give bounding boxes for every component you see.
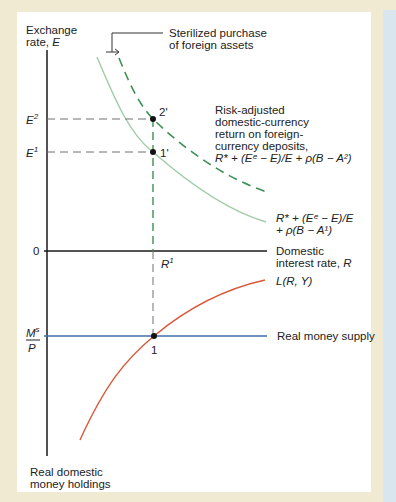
point-1-prime-label: 1': [160, 147, 169, 159]
e2-label: E2: [26, 114, 38, 126]
money-demand-label: L(R, Y): [276, 275, 312, 287]
p-label: P: [28, 342, 36, 354]
origin-label: 0: [33, 245, 39, 257]
money-demand-curve: [80, 280, 265, 440]
r1-label: R1: [161, 258, 174, 270]
money-supply-label: Real money supply: [277, 330, 375, 342]
point-2-prime: [150, 116, 156, 122]
y-axis-label: Exchange rate, E: [26, 24, 77, 48]
risk-adjusted-return-label: Risk-adjusted domestic-currency return o…: [215, 104, 352, 164]
point-1: [151, 333, 157, 339]
x-axis-label: Domestic interest rate, R: [276, 245, 351, 269]
point-1-label: 1: [151, 344, 157, 356]
ms-label: Ms: [26, 327, 40, 339]
point-2-prime-label: 2': [159, 106, 168, 118]
lower-axis-label: Real domestic money holdings: [30, 466, 111, 490]
point-1-prime: [150, 149, 156, 155]
callout-bracket: [112, 33, 163, 52]
sterilized-purchase-label: Sterilized purchase of foreign assets: [169, 27, 267, 51]
original-curve-formula: R* + (Eᵉ − E)/E + ρ(B − A¹): [276, 212, 353, 236]
e1-label: E1: [26, 147, 38, 159]
